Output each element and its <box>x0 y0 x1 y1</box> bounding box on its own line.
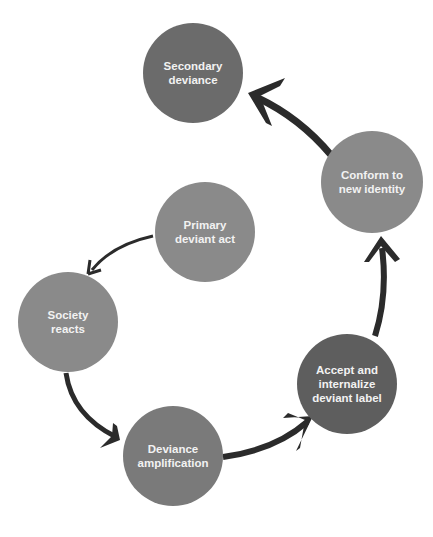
node-society-reacts: Society reacts <box>18 272 118 372</box>
node-label: Conform to new identity <box>331 168 413 196</box>
arrow-accept-to-conform <box>375 248 384 336</box>
node-secondary-deviance: Secondary deviance <box>143 23 243 123</box>
node-primary-deviant-act: Primary deviant act <box>155 182 255 282</box>
node-deviance-amplification: Deviance amplification <box>123 406 223 506</box>
node-label: Primary deviant act <box>167 218 243 246</box>
arrow-conform-to-secondary <box>258 98 331 155</box>
arrow-primary-to-society <box>92 236 153 270</box>
node-accept-internalize: Accept and internalize deviant label <box>297 334 397 434</box>
arrow-society-to-amplification <box>66 373 116 437</box>
node-conform-to-new-identity: Conform to new identity <box>321 131 423 233</box>
node-label: Deviance amplification <box>130 442 217 470</box>
node-label: Society reacts <box>40 308 97 336</box>
arrow-amplification-to-accept <box>223 422 307 457</box>
node-label: Secondary deviance <box>156 59 231 87</box>
node-label: Accept and internalize deviant label <box>304 363 390 405</box>
